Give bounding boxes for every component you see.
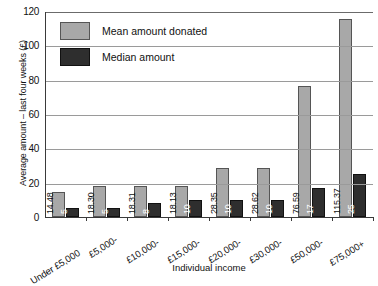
gridline-60 — [46, 115, 373, 116]
bar-value-label: 8 — [142, 209, 151, 214]
legend-label-mean: Mean amount donated — [102, 25, 207, 37]
gridline-80 — [46, 81, 373, 82]
chart-legend: Mean amount donated Median amount — [60, 18, 207, 70]
y-tick-label-0: 0 — [34, 213, 39, 223]
bar-value-label: 10 — [224, 204, 233, 214]
legend-swatch-mean-icon — [60, 22, 90, 40]
legend-swatch-median-icon — [60, 48, 90, 66]
y-tick-label-120: 120 — [23, 7, 39, 17]
y-tick-label-60: 60 — [28, 110, 39, 120]
x-axis-tick-labels: Under £5,000£5,000-£10,000-£15,000-£20,0… — [45, 218, 378, 263]
bar-value-label: 18.30 — [87, 192, 96, 214]
legend-label-median: Median amount — [102, 51, 174, 63]
bar-value-label: 10 — [183, 204, 192, 214]
bar-value-label: 14.48 — [46, 192, 55, 214]
bar-median[interactable]: 5 — [66, 208, 79, 217]
bar-value-label: 115.37 — [333, 188, 342, 214]
bar-value-label: 76.59 — [292, 192, 301, 214]
bar-median[interactable]: 8 — [148, 203, 161, 217]
legend-item-median: Median amount — [60, 44, 207, 70]
bar-value-label: 28.62 — [251, 192, 260, 214]
y-tick-label-40: 40 — [28, 144, 39, 154]
y-tick-label-100: 100 — [23, 41, 39, 51]
bar-mean[interactable]: 76.59 — [298, 86, 311, 217]
y-tick-label-20: 20 — [28, 179, 39, 189]
gridline-20 — [46, 184, 373, 185]
bar-median[interactable]: 25 — [353, 174, 366, 217]
bar-median[interactable]: 10 — [230, 200, 243, 217]
x-axis-title: Individual income — [45, 262, 373, 273]
bar-value-label: 17 — [306, 204, 315, 214]
gridline-40 — [46, 149, 373, 150]
bar-median[interactable]: 10 — [271, 200, 284, 217]
bar-value-label: 5 — [101, 209, 110, 214]
legend-item-mean: Mean amount donated — [60, 18, 207, 44]
bar-value-label: 25 — [347, 204, 356, 214]
y-tick-label-80: 80 — [28, 76, 39, 86]
bar-value-label: 18.31 — [128, 192, 137, 214]
bar-value-label: 28.35 — [210, 192, 219, 214]
bar-median[interactable]: 17 — [312, 188, 325, 217]
bar-value-label: 5 — [60, 209, 69, 214]
y-axis-tick-labels: 120100806040200 — [0, 0, 42, 277]
bar-median[interactable]: 10 — [189, 200, 202, 217]
bar-mean[interactable]: 115.37 — [339, 19, 352, 217]
bar-value-label: 10 — [265, 204, 274, 214]
bar-median[interactable]: 5 — [107, 208, 120, 217]
x-tick-label: £5,000- — [87, 235, 119, 260]
gridline-120 — [46, 12, 373, 13]
bar-value-label: 18.13 — [169, 192, 178, 214]
